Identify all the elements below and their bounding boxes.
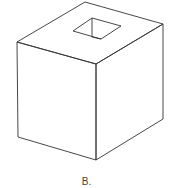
cube-right-face [96,24,163,160]
cube [17,2,163,160]
cube-left-face [17,42,96,160]
cube-top-face [17,2,163,64]
cube-with-hole-diagram [0,0,173,188]
square-hole-outline [73,18,121,39]
figure-caption: B. [0,176,173,188]
